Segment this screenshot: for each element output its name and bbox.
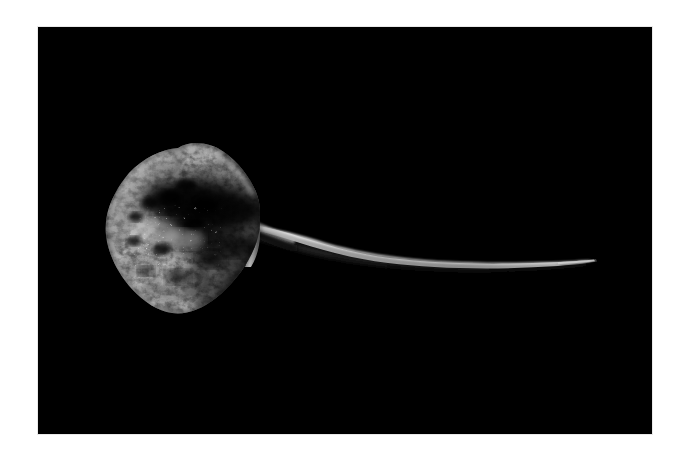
photograph-frame: Stingray on black background with long t… (0, 0, 687, 463)
stingray-photograph (38, 27, 652, 434)
photograph-image-area: Stingray on black background with long t… (38, 27, 652, 434)
frame-vignette (38, 27, 652, 434)
